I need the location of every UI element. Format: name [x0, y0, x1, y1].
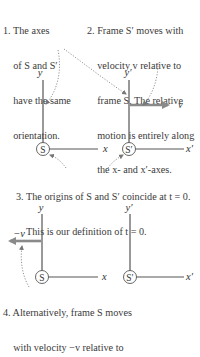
callout-1-to-sp-y-axis — [64, 49, 126, 94]
bottom-s-x-label: x — [101, 271, 107, 282]
top-sp-x-label: x′ — [185, 143, 194, 154]
note-4-line-1: 4. Alternatively, frame S moves — [3, 307, 132, 319]
bottom-sp-origin-label: S′ — [126, 273, 133, 283]
velocity-label-v: v — [178, 99, 183, 110]
top-frame-s: S y x — [37, 67, 109, 156]
top-sp-origin-label: S′ — [125, 145, 132, 155]
bottom-frame-s: S y x −v — [10, 202, 107, 284]
dotted-callouts-top — [46, 49, 158, 168]
bottom-frame-s-prime: S′ y′ x′ — [124, 202, 194, 284]
note-4-line-2: with velocity −v relative to — [3, 342, 132, 354]
top-s-y-label: y — [37, 67, 43, 78]
bottom-sp-x-label: x′ — [185, 271, 194, 282]
callout-4-to-minus-v — [21, 246, 29, 287]
bottom-sp-y-label: y′ — [125, 202, 134, 213]
bottom-s-y-label: y — [38, 202, 44, 213]
callout-2-to-velocity — [143, 63, 158, 105]
callout-3-to-s-origin — [50, 155, 66, 168]
velocity-label-minus-v: −v — [13, 228, 25, 239]
top-s-x-label: x — [102, 143, 108, 154]
bottom-s-origin-label: S — [39, 273, 44, 283]
callout-1-to-s-y-axis — [46, 50, 60, 104]
top-frame-s-prime: S′ y′ x′ v — [123, 67, 194, 156]
top-s-origin-label: S — [40, 145, 45, 155]
top-sp-y-label: y′ — [124, 67, 133, 78]
callout-3-to-sp-origin — [108, 155, 123, 168]
